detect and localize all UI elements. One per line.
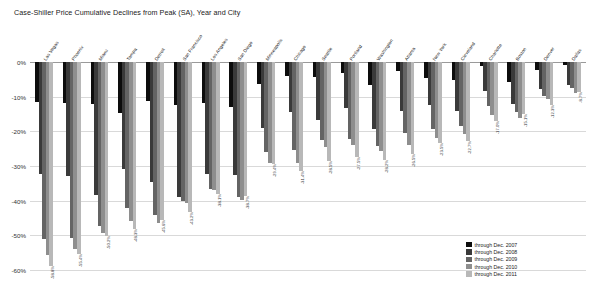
- x-axis-city-label: Detroit: [154, 47, 166, 62]
- x-axis-city-label: New York: [432, 42, 448, 61]
- x-axis-city-label: Dallas: [571, 48, 583, 62]
- y-axis-tick-label: 0%: [17, 59, 26, 66]
- x-axis-city-label: Las Vegas: [43, 40, 60, 61]
- bar-value-label: -8.7%: [578, 92, 583, 103]
- bar-group: Washington-28.2%: [364, 62, 392, 270]
- bar-group: Miami-50.2%: [86, 62, 114, 270]
- x-axis-city-label: Tampa: [126, 47, 138, 62]
- legend-swatch: [466, 249, 472, 255]
- bar-value-label: -29.4%: [272, 164, 277, 177]
- bar-group: Dallas-8.7%: [558, 62, 586, 270]
- bar-value-label: -28.5%: [328, 161, 333, 174]
- bar-group: San Francisco-43.2%: [169, 62, 197, 270]
- x-axis-city-label: Portland: [348, 44, 362, 62]
- bar: -26.5%: [411, 62, 415, 154]
- x-axis-city-label: Washington: [376, 38, 394, 61]
- bar-group: Los Angeles-38.1%: [197, 62, 225, 270]
- bar-group: Las Vegas-58.8%: [30, 62, 58, 270]
- bar-group: San Diego-38.7%: [225, 62, 253, 270]
- bar-value-label: -43.2%: [189, 212, 194, 225]
- legend-swatch: [466, 257, 472, 263]
- y-axis-tick-label: -30%: [12, 163, 26, 170]
- bar-value-label: -22.7%: [467, 141, 472, 154]
- legend-item[interactable]: through Dec. 2010: [466, 263, 517, 270]
- bar: -38.1%: [216, 62, 220, 194]
- chart-root: Case-Shiller Price Cumulative Declines f…: [0, 0, 599, 283]
- x-axis-city-label: San Diego: [237, 40, 254, 61]
- legend-item[interactable]: through Dec. 2008: [466, 248, 517, 255]
- x-axis-city-label: San Francisco: [182, 34, 204, 62]
- chart-legend: through Dec. 2007through Dec. 2008throug…: [466, 241, 517, 278]
- bar: -23.5%: [438, 62, 442, 143]
- legend-label: through Dec. 2008: [475, 249, 518, 255]
- y-axis-tick-label: -50%: [12, 232, 26, 239]
- bar-value-label: -31.4%: [300, 171, 305, 184]
- bar-group: Seattle-28.5%: [308, 62, 336, 270]
- legend-item[interactable]: through Dec. 2011: [466, 271, 517, 278]
- bar-value-label: -26.5%: [411, 154, 416, 167]
- x-axis-city-label: Phoenix: [70, 44, 84, 61]
- bar-value-label: -27.5%: [356, 157, 361, 170]
- y-axis-tick-label: -20%: [12, 128, 26, 135]
- bar-group: Minneapolis-29.4%: [252, 62, 280, 270]
- bar: -45.6%: [160, 62, 164, 220]
- bar-value-label: -12.3%: [550, 105, 555, 118]
- bar-group: Detroit-45.6%: [141, 62, 169, 270]
- bar-value-label: -38.1%: [217, 194, 222, 207]
- legend-swatch: [466, 264, 472, 270]
- bar: -55.4%: [77, 62, 81, 254]
- bar-value-label: -28.2%: [384, 160, 389, 173]
- x-axis-city-label: Denver: [543, 46, 556, 62]
- bar: -27.5%: [355, 62, 359, 157]
- legend-label: through Dec. 2007: [475, 242, 518, 248]
- bar-group: New York-23.5%: [419, 62, 447, 270]
- bar-value-label: -45.6%: [161, 220, 166, 233]
- bar: -22.7%: [466, 62, 470, 141]
- bar: -50.2%: [105, 62, 109, 236]
- bar: -28.2%: [383, 62, 387, 160]
- bar: -15.1%: [522, 62, 526, 114]
- x-axis-city-label: Cleveland: [460, 41, 476, 61]
- bar-value-label: -55.4%: [78, 254, 83, 267]
- y-axis-tick-label: -40%: [12, 197, 26, 204]
- bar-groups: Las Vegas-58.8%Phoenix-55.4%Miami-50.2%T…: [30, 62, 586, 270]
- y-axis-tick-label: -10%: [12, 93, 26, 100]
- x-axis-city-label: Los Angeles: [209, 37, 228, 61]
- bar-group: Denver-12.3%: [530, 62, 558, 270]
- bar-value-label: -38.7%: [245, 196, 250, 209]
- x-axis-city-label: Miami: [98, 48, 109, 61]
- x-axis-city-label: Seattle: [321, 46, 334, 61]
- bar: -17.0%: [494, 62, 498, 121]
- bar-group: Portland-27.5%: [336, 62, 364, 270]
- bar-group: Charlotte-17.0%: [475, 62, 503, 270]
- bar: -8.7%: [577, 62, 581, 92]
- bar-value-label: -23.5%: [439, 143, 444, 156]
- legend-swatch: [466, 242, 472, 248]
- bar: -58.8%: [49, 62, 53, 266]
- bar-group: Cleveland-22.7%: [447, 62, 475, 270]
- bar: -43.2%: [188, 62, 192, 212]
- legend-item[interactable]: through Dec. 2009: [466, 256, 517, 263]
- bar-value-label: -48.3%: [133, 229, 138, 242]
- x-axis-city-label: Atlanta: [404, 46, 417, 61]
- legend-label: through Dec. 2009: [475, 256, 518, 262]
- legend-swatch: [466, 271, 472, 277]
- x-axis-city-label: Charlotte: [487, 43, 502, 62]
- chart-title: Case-Shiller Price Cumulative Declines f…: [14, 8, 240, 17]
- y-axis-tick-label: -60%: [12, 267, 26, 274]
- bar-value-label: -50.2%: [106, 236, 111, 249]
- bar: -12.3%: [550, 62, 554, 105]
- x-axis-city-label: Chicago: [293, 44, 307, 61]
- plot-area: 0%-10%-20%-30%-40%-50%-60% Las Vegas-58.…: [30, 62, 586, 270]
- bar-value-label: -15.1%: [523, 114, 528, 127]
- bar: -28.5%: [327, 62, 331, 161]
- bar: -38.7%: [244, 62, 248, 196]
- legend-item[interactable]: through Dec. 2007: [466, 241, 517, 248]
- bar: -48.3%: [133, 62, 137, 229]
- legend-label: through Dec. 2011: [475, 271, 517, 277]
- legend-label: through Dec. 2010: [475, 264, 518, 270]
- bar: -31.4%: [299, 62, 303, 171]
- bar-value-label: -17.0%: [495, 121, 500, 134]
- bar-group: Tampa-48.3%: [113, 62, 141, 270]
- x-axis-city-label: Minneapolis: [265, 38, 284, 62]
